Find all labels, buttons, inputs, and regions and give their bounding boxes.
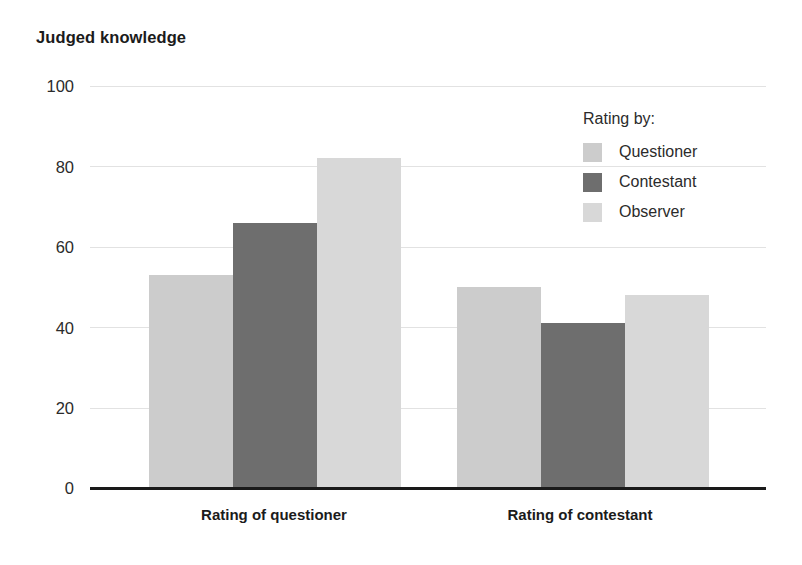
y-tick-label-0: 0 (65, 479, 74, 498)
legend-swatch-contestant (583, 173, 602, 192)
legend-label-contestant: Contestant (619, 173, 696, 191)
bar-observer-group-1 (625, 295, 709, 488)
bar-chart-figure: Judged knowledge 100 80 60 40 20 0 Ratin… (0, 0, 802, 565)
gridline-100 (90, 86, 766, 87)
y-tick-label-80: 80 (56, 158, 74, 177)
legend-title: Rating by: (583, 110, 697, 128)
gridline-60 (90, 247, 766, 248)
legend-swatch-observer (583, 203, 602, 222)
legend-item-questioner: Questioner (583, 137, 697, 167)
x-tick-label-group-0: Rating of questioner (201, 506, 347, 523)
x-axis-baseline (90, 487, 766, 490)
legend-label-observer: Observer (619, 203, 685, 221)
x-tick-label-group-1: Rating of contestant (508, 506, 653, 523)
bar-questioner-group-0 (149, 275, 233, 488)
y-tick-label-40: 40 (56, 319, 74, 338)
y-tick-label-60: 60 (56, 238, 74, 257)
y-axis: 100 80 60 40 20 0 (0, 0, 74, 565)
bar-contestant-group-0 (233, 223, 317, 488)
legend-swatch-questioner (583, 143, 602, 162)
bar-contestant-group-1 (541, 323, 625, 488)
legend-item-contestant: Contestant (583, 167, 697, 197)
y-tick-label-100: 100 (46, 77, 74, 96)
y-tick-label-20: 20 (56, 399, 74, 418)
legend-label-questioner: Questioner (619, 143, 697, 161)
bar-observer-group-0 (317, 158, 401, 488)
legend: Rating by: Questioner Contestant Observe… (583, 110, 697, 227)
legend-item-observer: Observer (583, 197, 697, 227)
bar-questioner-group-1 (457, 287, 541, 488)
